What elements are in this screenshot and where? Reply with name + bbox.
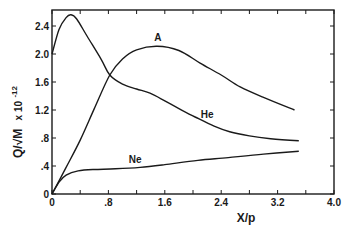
- series-label-a: A: [154, 32, 161, 43]
- y-axis-title-text: Q/√M x 10 -12: [10, 85, 25, 158]
- series-label-he: He: [201, 109, 214, 120]
- x-tick-label: 1.6: [158, 197, 172, 208]
- plot-area-border: [52, 10, 334, 194]
- x-tick-labels: 0.81.62.43.24.0: [49, 197, 341, 208]
- y-tick-label: .4: [41, 161, 50, 172]
- y-tick-label: 1.6: [35, 77, 49, 88]
- y-tick-label: 1.2: [35, 105, 49, 116]
- y-tick-label: .8: [41, 133, 50, 144]
- x-tick-label: 0: [49, 197, 55, 208]
- y-tick-label: 2.0: [35, 49, 49, 60]
- chart: 0.81.62.43.24.0 0.4.81.21.62.02.4 AHeNe …: [0, 0, 344, 229]
- x-tick-label: 4.0: [327, 197, 341, 208]
- x-tick-label: 3.2: [271, 197, 285, 208]
- curve-a: [52, 46, 295, 194]
- plot-frame: [52, 10, 334, 194]
- y-axis-title-power: -12: [10, 85, 19, 97]
- y-axis-title-exp: x 10: [13, 100, 24, 120]
- y-axis-title: Q/√M x 10 -12: [10, 85, 25, 158]
- curve-ne: [52, 151, 299, 194]
- x-tick-label: 2.4: [214, 197, 228, 208]
- y-axis-title-main: Q/√M: [11, 129, 25, 158]
- y-tick-label: 0: [43, 189, 49, 200]
- x-axis-title: X/p: [237, 211, 256, 225]
- x-tick-label: .8: [104, 197, 113, 208]
- y-tick-labels: 0.4.81.21.62.02.4: [35, 21, 49, 200]
- y-tick-label: 2.4: [35, 21, 49, 32]
- axis-ticks: [52, 10, 334, 194]
- series-labels: AHeNe: [129, 32, 214, 164]
- data-curves: [52, 15, 299, 194]
- series-label-ne: Ne: [129, 154, 142, 165]
